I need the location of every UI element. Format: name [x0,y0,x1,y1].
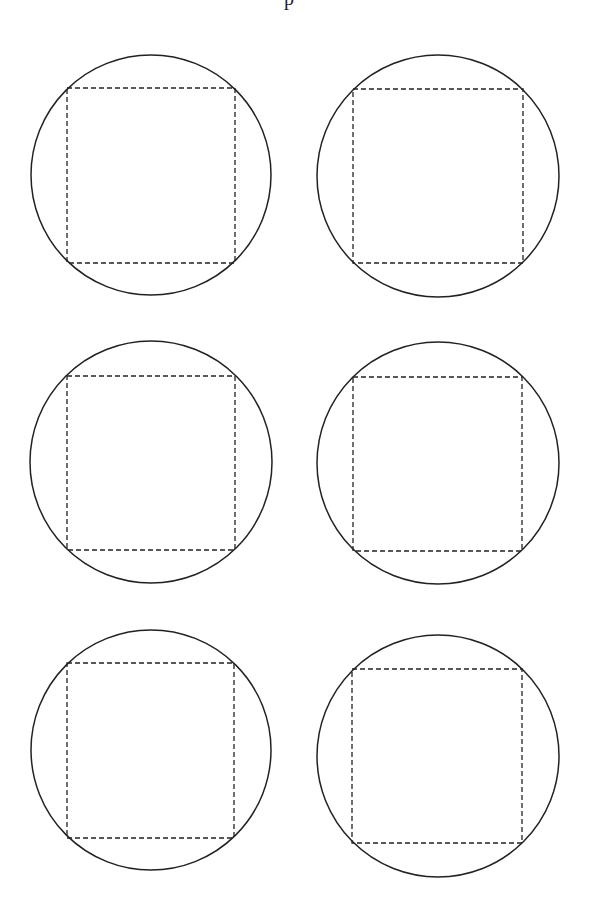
cutout-sheet [0,0,616,912]
cutout-1 [31,55,271,295]
cutout-4 [317,342,559,584]
dashed-square-guide [67,376,235,550]
dashed-square-guide [353,377,522,551]
dashed-square-guide [67,88,235,263]
template-page: p [0,0,616,912]
dashed-square-guide [352,669,522,843]
dashed-square-guide [353,89,523,263]
circle-outline [317,635,559,877]
circle-outline [30,341,272,583]
cutout-5 [31,630,271,870]
cutout-2 [317,55,559,297]
cutout-3 [30,341,272,583]
cutout-6 [317,635,559,877]
dashed-square-guide [67,663,234,838]
